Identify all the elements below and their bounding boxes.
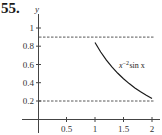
y-tick-label: 1 — [30, 23, 35, 33]
curve-x-inv-sq-sin-x — [95, 43, 152, 99]
x-tick-label: 1 — [93, 124, 98, 134]
y-tick-label: 0.2 — [23, 96, 34, 106]
x-tick-label: 0.5 — [61, 124, 73, 134]
x-tick-label: 2 — [150, 124, 155, 134]
x-tick-label: 1.5 — [118, 124, 130, 134]
y-axis-label: y — [34, 4, 39, 14]
y-tick-label: 0.8 — [23, 41, 35, 51]
y-tick-label: 0.4 — [23, 78, 35, 88]
y-tick-label: 0.6 — [23, 60, 35, 70]
chart: y 1 0.8 0.6 0.4 0.2 0.5 1 1.5 2 x−2sin x — [0, 0, 162, 135]
curve-label: x−2sin x — [118, 60, 145, 70]
